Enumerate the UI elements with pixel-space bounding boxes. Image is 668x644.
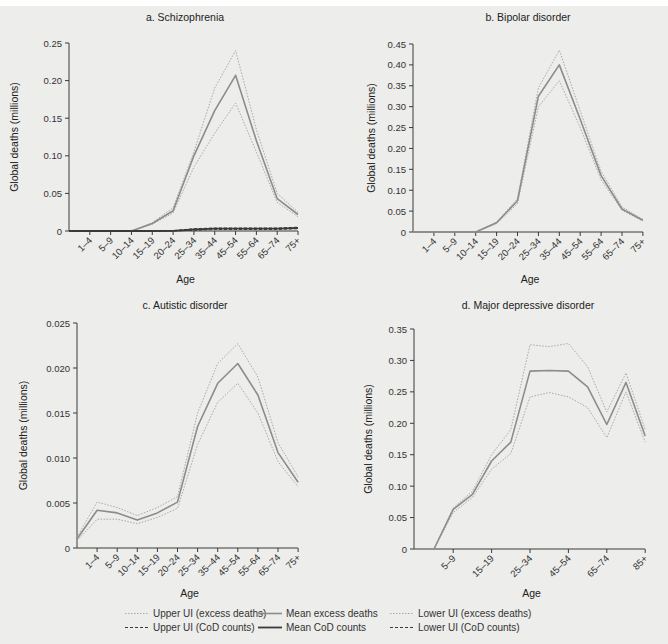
chart-title: b. Bipolar disorder [485, 11, 571, 23]
y-tick-label: 0.20 [389, 418, 408, 429]
y-tick-label: 0.05 [44, 188, 63, 199]
x-tick-label: 5–9 [439, 553, 458, 572]
y-tick-label: 0.10 [389, 481, 408, 492]
x-tick-label: 15–19 [130, 235, 156, 261]
x-tick-label: 65–74 [256, 552, 282, 578]
series-lower-ui-excess-deaths [69, 103, 298, 231]
series-lower-ui-excess-deaths [434, 392, 645, 549]
x-tick-label: 20–24 [151, 235, 177, 261]
figure: a. Schizophrenia00.050.100.150.200.251–4… [0, 6, 668, 644]
series-upper-ui-excess-deaths [69, 51, 298, 232]
x-tick-label: 45–54 [216, 552, 242, 578]
x-tick-label: 55–64 [579, 236, 605, 262]
x-tick-label: 1–4 [419, 236, 438, 255]
y-tick-label: 0.25 [44, 38, 63, 49]
series-upper-ui-excess-deaths [434, 344, 645, 550]
y-tick-label: 0 [402, 544, 407, 555]
legend-label: Upper UI (CoD counts) [153, 622, 255, 633]
chart-canvas: a. Schizophrenia00.050.100.150.200.251–4… [0, 6, 668, 644]
x-tick-label: 45–54 [546, 553, 572, 579]
y-tick-label: 0.30 [389, 355, 408, 366]
chart-panel-2: b. Bipolar disorder00.050.100.150.200.25… [365, 11, 648, 285]
chart-title: d. Major depressive disorder [462, 299, 595, 311]
x-tick-label: 15–19 [475, 236, 501, 262]
x-axis-label: Age [521, 273, 540, 285]
series-mean-excess-deaths [413, 65, 643, 232]
chart-panel-3: c. Autistic disorder00.0050.0100.0150.02… [17, 299, 303, 599]
x-tick-label: 75+ [628, 235, 647, 254]
y-tick-label: 0.20 [44, 75, 63, 86]
series-mean-excess-deaths [434, 371, 645, 550]
y-tick-label: 0 [57, 226, 62, 237]
x-tick-label: 25–34 [516, 236, 542, 262]
y-tick-label: 0.025 [46, 318, 70, 329]
legend-label: Lower UI (excess deaths) [418, 608, 531, 619]
chart-panel-1: a. Schizophrenia00.050.100.150.200.251–4… [8, 11, 303, 285]
y-tick-label: 0.05 [389, 512, 408, 523]
y-tick-label: 0.015 [46, 408, 70, 419]
y-tick-label: 0.010 [46, 453, 70, 464]
y-tick-label: 0 [65, 543, 70, 554]
x-tick-label: 65–74 [255, 235, 281, 261]
x-tick-label: 1–4 [83, 552, 102, 571]
x-tick-label: 65–74 [600, 236, 626, 262]
x-tick-label: 20–24 [495, 236, 521, 262]
x-tick-label: 45–54 [214, 235, 240, 261]
x-tick-label: 35–44 [537, 236, 563, 262]
y-tick-label: 0.15 [388, 164, 407, 175]
x-tick-label: 10–14 [115, 552, 141, 578]
x-tick-label: 15–19 [135, 552, 161, 578]
x-tick-label: 10–14 [454, 236, 480, 262]
x-axis-label: Age [176, 273, 195, 285]
legend-label: Mean excess deaths [286, 608, 378, 619]
series-upper-ui-excess-deaths [413, 50, 643, 232]
x-tick-label: 35–44 [193, 235, 219, 261]
x-tick-label: 45–54 [558, 236, 584, 262]
x-axis-label: Age [522, 587, 541, 599]
legend: Upper UI (excess deaths)Mean excess deat… [125, 608, 531, 633]
x-tick-label: 25–34 [172, 235, 198, 261]
legend-label: Lower UI (CoD counts) [418, 622, 520, 633]
y-tick-label: 0.25 [389, 386, 408, 397]
y-axis-label: Global deaths (millions) [362, 384, 374, 494]
series-lower-ui-excess-deaths [413, 81, 643, 232]
y-tick-label: 0.005 [46, 498, 70, 509]
y-tick-label: 0.35 [389, 324, 408, 335]
y-axis-label: Global deaths (millions) [365, 83, 377, 193]
x-tick-label: 35–44 [196, 552, 222, 578]
y-axis-label: Global deaths (millions) [17, 381, 29, 491]
y-tick-label: 0.05 [388, 206, 407, 217]
legend-label: Mean CoD counts [286, 622, 366, 633]
y-tick-label: 0.15 [44, 113, 63, 124]
y-tick-label: 0.30 [388, 101, 407, 112]
series-upper-ui-excess-deaths [77, 344, 298, 538]
x-tick-label: 15–19 [470, 553, 496, 579]
x-tick-label: 85+ [630, 552, 649, 571]
x-tick-label: 25–34 [508, 553, 534, 579]
x-tick-label: 55–64 [236, 552, 262, 578]
chart-title: a. Schizophrenia [146, 11, 224, 23]
x-tick-label: 20–24 [155, 552, 181, 578]
chart-panel-4: d. Major depressive disorder00.050.100.1… [362, 299, 650, 599]
y-tick-label: 0.45 [388, 39, 407, 50]
y-tick-label: 0.35 [388, 80, 407, 91]
y-tick-label: 0.20 [388, 143, 407, 154]
x-tick-label: 10–14 [109, 235, 135, 261]
y-tick-label: 0.10 [44, 150, 63, 161]
x-tick-label: 55–64 [234, 235, 260, 261]
y-tick-label: 0.15 [389, 449, 408, 460]
y-tick-label: 0.10 [388, 185, 407, 196]
x-tick-label: 25–34 [176, 552, 202, 578]
y-tick-label: 0 [401, 227, 406, 238]
x-axis-label: Age [180, 587, 199, 599]
y-tick-label: 0.25 [388, 122, 407, 133]
x-tick-label: 75+ [283, 551, 302, 570]
chart-title: c. Autistic disorder [142, 299, 228, 311]
y-tick-label: 0.020 [46, 363, 70, 374]
x-tick-label: 65–74 [585, 553, 611, 579]
legend-label: Upper UI (excess deaths) [153, 608, 266, 619]
x-tick-label: 75+ [283, 234, 302, 253]
y-axis-label: Global deaths (millions) [8, 82, 20, 192]
series-mean-excess-deaths [69, 75, 298, 231]
y-tick-label: 0.40 [388, 59, 407, 70]
